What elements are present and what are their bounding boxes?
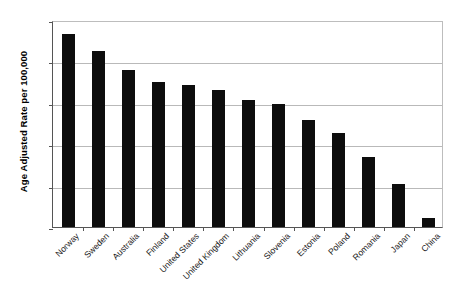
bars-group [53, 22, 442, 227]
bar [302, 120, 315, 227]
bar [92, 51, 105, 227]
bar [332, 133, 345, 227]
plot-area: 0510152025 [52, 21, 443, 228]
y-tick-mark [49, 229, 53, 230]
bar-chart-figure: Age Adjusted Rate per 100,000 0510152025… [0, 0, 457, 295]
bar [212, 90, 225, 227]
x-tick-label: Poland [326, 231, 352, 257]
x-tick-label: Slovenia [261, 231, 291, 261]
x-tick-label: Finland [144, 231, 171, 258]
x-tick-label: Norway [53, 231, 81, 259]
x-tick-label: Japan [388, 231, 412, 255]
bar [392, 184, 405, 227]
x-tick-label: Sweden [82, 231, 111, 260]
bar [422, 218, 435, 227]
x-axis-labels: NorwaySwedenAustraliaFinlandUnited State… [52, 231, 443, 295]
bar [242, 100, 255, 227]
bar [122, 70, 135, 227]
bar [152, 82, 165, 227]
bar [182, 85, 195, 227]
bar [272, 104, 285, 227]
bar [62, 34, 75, 227]
x-tick-label: Estonia [294, 231, 321, 258]
y-axis-title: Age Adjusted Rate per 100,000 [18, 17, 29, 227]
x-axis-category-label: Norway [3, 231, 81, 295]
x-tick-label: China [419, 231, 442, 254]
bar [362, 157, 375, 227]
